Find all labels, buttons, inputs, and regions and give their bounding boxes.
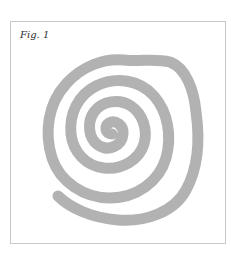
spiral-stroke bbox=[48, 60, 198, 221]
spiral-illustration bbox=[0, 0, 231, 253]
